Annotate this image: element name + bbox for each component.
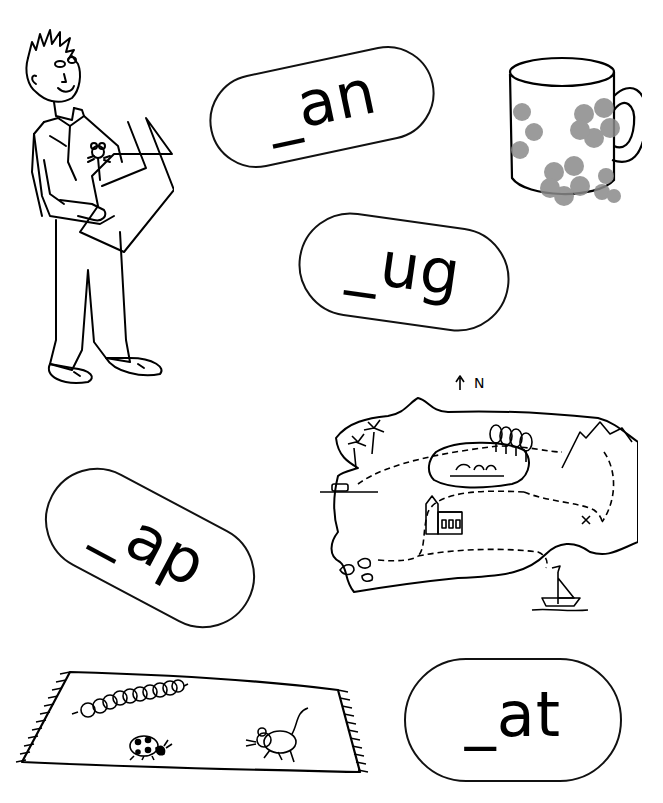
mat-picture bbox=[4, 668, 374, 780]
word-card-an[interactable]: _an bbox=[201, 37, 444, 176]
word-card-ap[interactable]: _ap bbox=[27, 450, 274, 647]
word-card-at[interactable]: _at bbox=[404, 658, 622, 782]
compass-north-label: N bbox=[474, 375, 484, 391]
word-card-label: _ap bbox=[84, 490, 216, 606]
man-picture bbox=[14, 20, 174, 392]
word-card-ug[interactable]: _ug bbox=[292, 206, 516, 338]
mug-picture bbox=[496, 50, 642, 210]
word-card-label: _an bbox=[260, 60, 384, 154]
treasure-map-picture: N bbox=[318, 372, 638, 617]
word-card-label: _at bbox=[465, 684, 561, 756]
word-card-label: _ug bbox=[343, 229, 465, 316]
